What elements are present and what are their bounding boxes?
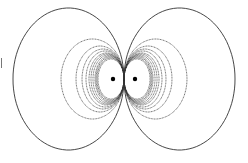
field-line	[13, 8, 124, 150]
field-line	[97, 58, 124, 100]
charge-dot	[133, 77, 137, 81]
field-line	[124, 8, 235, 150]
field-line	[124, 58, 151, 100]
dipole-field-diagram	[0, 0, 248, 163]
charge-dot	[111, 77, 115, 81]
